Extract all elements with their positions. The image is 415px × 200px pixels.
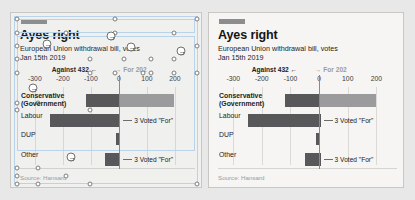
bar-against[interactable] [50, 114, 119, 127]
bar-row-labour[interactable]: Labour 3 Voted "For" [218, 107, 397, 127]
callout-text: 3 Voted "For" [335, 156, 374, 163]
resize-handle[interactable] [195, 44, 200, 49]
rotate-handle-icon[interactable] [177, 47, 186, 56]
chart-source: Source: Hansard [218, 174, 264, 181]
resize-handle[interactable] [113, 17, 118, 22]
direction-against-label: Against 432 ← [252, 66, 301, 73]
x-tick-label: 200 [371, 75, 382, 82]
bar-row-labour[interactable]: Labour 3 Voted "For" [20, 107, 195, 127]
resize-handle[interactable] [15, 182, 20, 187]
chart-source: Source: Hansard [20, 174, 66, 181]
resize-handle[interactable] [36, 166, 41, 171]
callout-text: 3 Voted "For" [134, 117, 173, 124]
bar-against[interactable] [285, 94, 319, 107]
bar-for[interactable] [119, 94, 174, 107]
resize-handle[interactable] [122, 57, 127, 62]
callout-leader-line [123, 159, 132, 160]
resize-handle[interactable] [15, 71, 20, 76]
chart-title: Ayes right [218, 28, 278, 42]
resize-handle[interactable] [15, 174, 20, 179]
bar-rows: Conservative (Government) Labour 3 Voted… [218, 87, 397, 165]
plot-area: -300 -200 -100 0 100 200 C [218, 75, 397, 165]
bar-rows: Conservative (Government) Labour 3 Voted… [20, 87, 195, 165]
resize-handle[interactable] [113, 71, 118, 76]
bar-for[interactable] [319, 94, 375, 107]
x-tick-label: -200 [255, 75, 269, 82]
category-label: DUP [219, 131, 234, 139]
resize-handle[interactable] [195, 71, 200, 76]
resize-handle[interactable] [15, 166, 20, 171]
x-axis-ticks: -300 -200 -100 0 100 200 [218, 75, 397, 86]
direction-against-label: Against 432 ← [52, 66, 101, 73]
zero-axis-line [119, 75, 120, 169]
rotate-handle-icon[interactable] [107, 32, 116, 41]
chart-surface-right: Ayes right European Union withdrawal bil… [209, 13, 403, 187]
category-label: Labour [219, 112, 240, 120]
bar-row-conservative[interactable]: Conservative (Government) [218, 87, 397, 107]
bar-against[interactable] [105, 153, 119, 166]
category-label: Conservative (Government) [21, 92, 66, 109]
resize-handle[interactable] [15, 108, 20, 113]
resize-handle[interactable] [36, 182, 41, 187]
resize-handle[interactable] [149, 71, 154, 76]
bar-against[interactable] [305, 153, 319, 166]
resize-handle[interactable] [64, 31, 69, 36]
rotate-handle-icon[interactable] [67, 153, 76, 162]
resize-handle[interactable] [141, 71, 146, 76]
callout-text: 3 Voted "For" [335, 117, 374, 124]
resize-handle[interactable] [172, 57, 177, 62]
resize-handle[interactable] [195, 17, 200, 22]
x-tick-label: 100 [141, 75, 152, 82]
resize-handle[interactable] [172, 31, 177, 36]
callout-leader-line [324, 120, 333, 121]
x-tick-label: 200 [169, 75, 180, 82]
x-tick-label: -300 [226, 75, 240, 82]
bar-row-dup[interactable]: DUP [20, 126, 195, 146]
grid-area: Conservative (Government) Labour 3 Voted… [218, 87, 397, 165]
resize-handle[interactable] [88, 71, 93, 76]
resize-handle[interactable] [88, 182, 93, 187]
chart-panel-editing[interactable]: Ayes right European Union withdrawal bil… [10, 12, 202, 188]
callout-labour: 3 Voted "For" [324, 117, 374, 124]
x-axis-ticks: -300 -200 -100 0 100 200 [20, 75, 195, 86]
callout-leader-line [324, 159, 333, 160]
callout-other: 3 Voted "For" [324, 156, 374, 163]
x-tick-label: -300 [28, 75, 42, 82]
chart-subtitle-line1: European Union withdrawal bill, votes [218, 44, 338, 53]
resize-handle[interactable] [172, 71, 177, 76]
zero-axis-line [319, 75, 320, 169]
plot-area: -300 -200 -100 0 100 200 C [20, 75, 195, 165]
bar-against[interactable] [248, 114, 319, 127]
category-label: DUP [21, 131, 36, 139]
bar-row-other[interactable]: Other 3 Voted "For" [20, 146, 195, 166]
x-tick-label: -200 [56, 75, 70, 82]
resize-handle[interactable] [149, 57, 154, 62]
chart-surface-left: Ayes right European Union withdrawal bil… [11, 13, 201, 187]
category-label: Conservative (Government) [219, 92, 264, 109]
footer-divider [218, 168, 397, 169]
bar-against[interactable] [86, 94, 119, 107]
resize-handle[interactable] [88, 57, 93, 62]
chart-subtitle-line2: Jan 15th 2019 [218, 53, 264, 62]
grid-area: Conservative (Government) Labour 3 Voted… [20, 87, 195, 165]
rotate-handle-icon[interactable] [43, 40, 52, 49]
resize-handle[interactable] [15, 101, 20, 106]
resize-handle[interactable] [15, 44, 20, 49]
brand-tag-icon [21, 19, 47, 24]
resize-handle[interactable] [64, 174, 69, 179]
x-tick-label: 100 [342, 75, 353, 82]
resize-handle[interactable] [15, 17, 20, 22]
category-label: Other [21, 151, 38, 159]
resize-handle[interactable] [195, 182, 200, 187]
callout-text: 3 Voted "For" [134, 156, 173, 163]
bar-row-conservative[interactable]: Conservative (Government) [20, 87, 195, 107]
bar-row-dup[interactable]: DUP [218, 126, 397, 146]
direction-for-label: → For 202 [311, 66, 347, 73]
brand-tag-icon [219, 19, 245, 24]
rotate-handle-icon[interactable] [127, 43, 136, 52]
bar-row-other[interactable]: Other 3 Voted "For" [218, 146, 397, 166]
resize-handle[interactable] [15, 57, 20, 62]
chart-panel-preview[interactable]: Ayes right European Union withdrawal bil… [208, 12, 404, 188]
resize-handle[interactable] [88, 108, 93, 113]
resize-handle[interactable] [15, 31, 20, 36]
